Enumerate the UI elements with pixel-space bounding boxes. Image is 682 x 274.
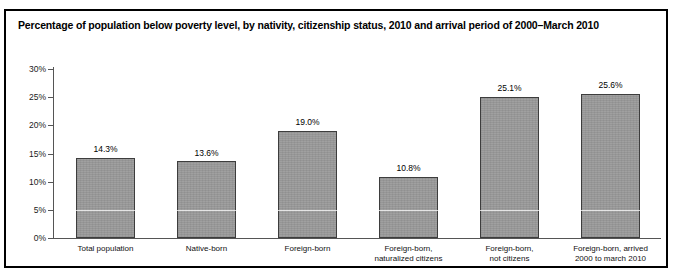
- bar-value-foreign-born: 19.0%: [278, 118, 337, 127]
- y-tick-label-15: 15%: [12, 150, 46, 158]
- x-label-total-population: Total population: [61, 244, 150, 254]
- y-tick-15: [48, 154, 54, 155]
- y-tick-label-25: 25%: [12, 93, 46, 101]
- y-tick-0: [48, 238, 54, 239]
- x-label-line: Foreign-born, arrived: [563, 244, 658, 254]
- x-axis-line: [53, 238, 661, 239]
- bar-value-native-born: 13.6%: [177, 149, 236, 158]
- y-tick-10: [48, 182, 54, 183]
- y-tick-30: [48, 69, 54, 70]
- x-label-foreign-born-not-citizens: Foreign-born, not citizens: [465, 244, 554, 264]
- x-label-line: not citizens: [465, 254, 554, 264]
- bar-foreign-born-naturalized[interactable]: [379, 177, 438, 238]
- y-tick-label-30: 30%: [12, 65, 46, 73]
- y-tick-label-0: 0%: [12, 234, 46, 242]
- bar-foreign-born-not-citizens[interactable]: [480, 97, 539, 238]
- x-label-line: Total population: [61, 244, 150, 254]
- bar-foreign-born[interactable]: [278, 131, 337, 238]
- gridline-5pct: [54, 210, 661, 211]
- y-tick-label-20: 20%: [12, 121, 46, 129]
- bar-value-foreign-born-naturalized: 10.8%: [379, 164, 438, 173]
- plot-area: 30% 25% 20% 15% 10% 5% 0% 14.3% 13.6% 19…: [6, 11, 670, 270]
- x-label-foreign-born: Foreign-born: [263, 244, 352, 254]
- x-label-line: Native-born: [162, 244, 251, 254]
- bar-value-foreign-born-arrived: 25.6%: [581, 81, 640, 90]
- y-axis-line: [53, 67, 54, 239]
- y-tick-20: [48, 125, 54, 126]
- x-label-line: naturalized citizens: [362, 254, 455, 264]
- x-label-line: Foreign-born,: [362, 244, 455, 254]
- chart-figure: Percentage of population below poverty l…: [4, 9, 668, 268]
- bar-foreign-born-arrived[interactable]: [581, 94, 640, 238]
- y-tick-label-10: 10%: [12, 178, 46, 186]
- y-tick-25: [48, 97, 54, 98]
- bar-value-foreign-born-not-citizens: 25.1%: [480, 84, 539, 93]
- bar-total-population[interactable]: [76, 158, 135, 239]
- y-tick-label-5: 5%: [12, 206, 46, 214]
- x-label-line: Foreign-born: [263, 244, 352, 254]
- x-label-foreign-born-arrived: Foreign-born, arrived 2000 to march 2010: [563, 244, 658, 264]
- x-label-native-born: Native-born: [162, 244, 251, 254]
- bar-native-born[interactable]: [177, 161, 236, 238]
- bar-value-total-population: 14.3%: [76, 145, 135, 154]
- x-label-foreign-born-naturalized: Foreign-born, naturalized citizens: [362, 244, 455, 264]
- x-label-line: Foreign-born,: [465, 244, 554, 254]
- x-label-line: 2000 to march 2010: [563, 254, 658, 264]
